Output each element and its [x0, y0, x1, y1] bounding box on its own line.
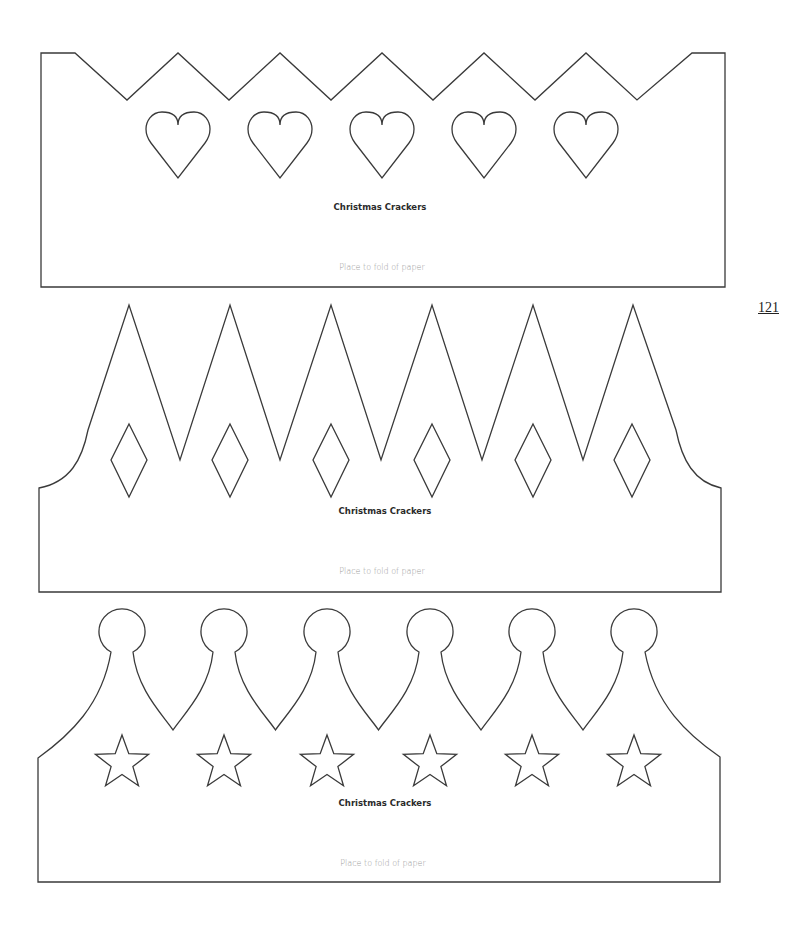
- diamond-icon: [614, 424, 650, 497]
- heart-icon: [146, 112, 210, 178]
- crown-3-outline: [38, 609, 720, 882]
- crown-3-title: Christmas Crackers: [339, 798, 432, 808]
- heart-icon: [350, 112, 414, 178]
- heart-cutouts: [146, 112, 618, 178]
- heart-icon: [248, 112, 312, 178]
- crown-2-fold-label: Place to fold of paper: [339, 567, 425, 576]
- diamond-icon: [313, 424, 349, 497]
- crown-2-title: Christmas Crackers: [339, 506, 432, 516]
- crown-zigzag: Christmas Crackers Place to fold of pape…: [41, 53, 725, 287]
- heart-icon: [554, 112, 618, 178]
- crown-template-sheet: Christmas Crackers Place to fold of pape…: [0, 0, 794, 934]
- diamond-icon: [111, 424, 147, 497]
- crown-tall-points: Christmas Crackers Place to fold of pape…: [39, 305, 721, 592]
- crown-1-fold-label: Place to fold of paper: [339, 263, 425, 272]
- diamond-icon: [212, 424, 248, 497]
- diamond-icon: [515, 424, 551, 497]
- crown-3-fold-label: Place to fold of paper: [340, 859, 426, 868]
- star-cutouts: [95, 735, 660, 786]
- heart-icon: [452, 112, 516, 178]
- crown-1-outline: [41, 53, 725, 287]
- diamond-icon: [414, 424, 450, 497]
- star-icon: [607, 735, 660, 786]
- star-icon: [197, 735, 250, 786]
- star-icon: [505, 735, 558, 786]
- star-icon: [403, 735, 456, 786]
- page-number: 121: [758, 300, 779, 316]
- crown-ball-points: Christmas Crackers Place to fold of pape…: [38, 609, 720, 882]
- star-icon: [300, 735, 353, 786]
- star-icon: [95, 735, 148, 786]
- crown-1-title: Christmas Crackers: [334, 202, 427, 212]
